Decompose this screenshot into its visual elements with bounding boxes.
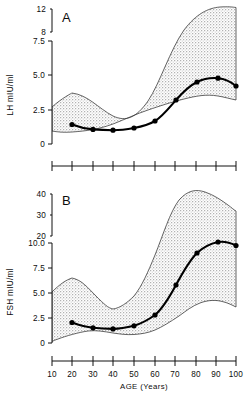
panel-b-ytick-7-5: 7.5 xyxy=(33,264,45,273)
panel-b-ytick-0: 0 xyxy=(40,339,45,348)
xtick-60: 60 xyxy=(150,370,160,379)
data-point xyxy=(131,125,136,130)
xtick-30: 30 xyxy=(88,370,98,379)
data-point xyxy=(152,312,157,317)
data-point xyxy=(194,79,199,84)
figure-lh-fsh-vs-age: 12 8 7.5 5.0 2.5 0 LH mIU/ml A xyxy=(0,0,248,393)
xtick-20: 20 xyxy=(67,370,77,379)
data-point xyxy=(90,325,95,330)
xtick-70: 70 xyxy=(170,370,180,379)
panel-a-ytick-7-5: 7.5 xyxy=(33,37,45,46)
xtick-90: 90 xyxy=(211,370,221,379)
data-point xyxy=(110,128,115,133)
panel-a-yaxis-label: LH mIU/ml xyxy=(6,74,15,115)
panel-b-ytick-upper-40: 40 xyxy=(36,190,46,199)
data-point xyxy=(233,83,238,88)
data-point xyxy=(110,326,115,331)
panel-b-ytick-5-0: 5.0 xyxy=(33,289,45,298)
xtick-40: 40 xyxy=(108,370,118,379)
xtick-10: 10 xyxy=(47,370,57,379)
panel-a-ytick-5-0: 5.0 xyxy=(33,71,45,80)
panel-a-label: A xyxy=(62,10,71,25)
panel-b-ytick-2-5: 2.5 xyxy=(33,314,45,323)
panel-a-ytick-0: 0 xyxy=(40,140,45,149)
data-point xyxy=(90,127,95,132)
panel-a-ytick-2-5: 2.5 xyxy=(33,106,45,115)
data-point xyxy=(152,118,157,123)
panel-b-ytick-upper-30: 30 xyxy=(36,211,46,220)
data-point xyxy=(69,320,74,325)
data-point xyxy=(173,97,178,102)
panel-b-ytick-10-0: 10.0 xyxy=(28,239,45,248)
panel-b-yaxis-label: FSH mIU/ml xyxy=(6,268,15,316)
data-point xyxy=(194,250,199,255)
xtick-50: 50 xyxy=(129,370,139,379)
xtick-80: 80 xyxy=(191,370,201,379)
figure-canvas: 12 8 7.5 5.0 2.5 0 LH mIU/ml A xyxy=(0,0,248,393)
data-point xyxy=(131,323,136,328)
xaxis-label: AGE (Years) xyxy=(120,382,168,391)
data-point xyxy=(69,122,74,127)
data-point xyxy=(173,282,178,287)
panel-a-ytick-upper-8: 8 xyxy=(41,28,46,37)
panel-b-label: B xyxy=(62,193,71,208)
panel-a-ytick-upper-12: 12 xyxy=(36,5,46,14)
xtick-100: 100 xyxy=(229,370,244,379)
data-point xyxy=(215,239,220,244)
data-point xyxy=(233,243,238,248)
data-point xyxy=(215,76,220,81)
